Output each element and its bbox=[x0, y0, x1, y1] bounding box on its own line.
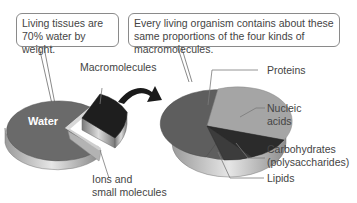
nucleic-acids-label: Nucleic acids bbox=[267, 102, 301, 128]
left-pie bbox=[5, 101, 101, 170]
arrow-icon bbox=[118, 86, 162, 104]
callout-left: Living tissues are 70% water by weight. bbox=[16, 13, 119, 47]
proteins-label: Proteins bbox=[267, 64, 306, 77]
nucleic-label-line1: Nucleic bbox=[267, 102, 301, 115]
ions-label-line2: small molecules bbox=[92, 186, 167, 199]
nucleic-label-line2: acids bbox=[267, 115, 301, 128]
carbohydrates-label: Carbohydrates (polysaccharides) bbox=[267, 143, 349, 169]
carbs-label-line1: Carbohydrates bbox=[267, 143, 349, 156]
ions-label-line1: Ions and bbox=[92, 173, 167, 186]
water-label: Water bbox=[28, 115, 58, 127]
ions-label: Ions and small molecules bbox=[92, 173, 167, 199]
callout-right: Every living organism contains about the… bbox=[128, 13, 340, 47]
macromolecules-label: Macromolecules bbox=[80, 61, 156, 74]
carbs-label-line2: (polysaccharides) bbox=[267, 156, 349, 169]
lipids-label: Lipids bbox=[267, 172, 294, 185]
